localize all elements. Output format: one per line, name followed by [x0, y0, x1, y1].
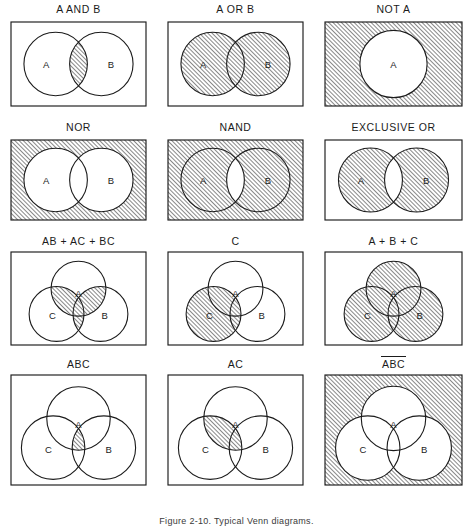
svg-text:C: C — [49, 310, 56, 321]
svg-text:A: A — [43, 175, 50, 186]
svg-text:A: A — [390, 288, 397, 299]
svg-text:A: A — [200, 59, 207, 70]
svg-text:A: A — [390, 419, 397, 430]
svg-text:A: A — [75, 288, 82, 299]
svg-text:B: B — [265, 59, 271, 70]
venn-cell-ab-ac-bc: AB + AC + BCABC — [0, 232, 157, 355]
svg-text:C: C — [364, 310, 371, 321]
venn-diagram-a-and-b: AB — [0, 0, 157, 118]
venn-cell-not-abc: ABCABC — [314, 355, 473, 495]
svg-text:B: B — [108, 175, 114, 186]
svg-text:B: B — [108, 59, 114, 70]
svg-text:C: C — [202, 444, 209, 455]
svg-text:A: A — [232, 419, 239, 430]
svg-text:C: C — [359, 444, 366, 455]
svg-text:C: C — [45, 444, 52, 455]
svg-text:B: B — [258, 310, 264, 321]
venn-diagram-not-abc: ABC — [314, 355, 473, 495]
svg-text:C: C — [206, 310, 213, 321]
venn-cell-nor: NORAB — [0, 118, 157, 232]
venn-cell-abc: ABCABC — [0, 355, 157, 495]
venn-cell-ac: ACABC — [157, 355, 314, 495]
svg-text:A: A — [358, 175, 365, 186]
venn-cell-a-plus-b-plus-c: A + B + CABC — [314, 232, 473, 355]
svg-text:B: B — [421, 444, 427, 455]
venn-diagram-nor: AB — [0, 118, 157, 232]
venn-cell-exclusive-or: EXCLUSIVE ORAB — [314, 118, 473, 232]
venn-diagram-abc: ABC — [0, 355, 157, 495]
venn-cell-a-and-b: A AND BAB — [0, 0, 157, 118]
venn-diagram-not-a: A — [314, 0, 473, 118]
svg-text:B: B — [423, 175, 429, 186]
venn-diagram-a-or-b: AB — [157, 0, 314, 118]
svg-text:B: B — [416, 310, 422, 321]
svg-text:B: B — [265, 175, 271, 186]
figure-caption: Figure 2-10. Typical Venn diagrams. — [0, 516, 473, 526]
venn-diagram-c: ABC — [157, 232, 314, 355]
svg-text:B: B — [101, 310, 107, 321]
svg-text:B: B — [262, 444, 268, 455]
venn-diagram-ac: ABC — [157, 355, 314, 495]
svg-text:A: A — [75, 419, 82, 430]
venn-diagram-exclusive-or: AB — [314, 118, 473, 232]
venn-diagram-ab-ac-bc: ABC — [0, 232, 157, 355]
svg-text:A: A — [200, 175, 207, 186]
svg-text:A: A — [390, 59, 397, 70]
svg-text:A: A — [43, 59, 50, 70]
venn-cell-nand: NANDAB — [157, 118, 314, 232]
venn-cell-c: CABC — [157, 232, 314, 355]
venn-cell-a-or-b: A OR BAB — [157, 0, 314, 118]
svg-text:B: B — [105, 444, 111, 455]
venn-diagram-grid: A AND BABA OR BABNOT AANORABNANDABEXCLUS… — [0, 0, 473, 527]
venn-diagram-nand: AB — [157, 118, 314, 232]
svg-text:A: A — [232, 288, 239, 299]
venn-cell-not-a: NOT AA — [314, 0, 473, 118]
venn-diagram-a-plus-b-plus-c: ABC — [314, 232, 473, 355]
